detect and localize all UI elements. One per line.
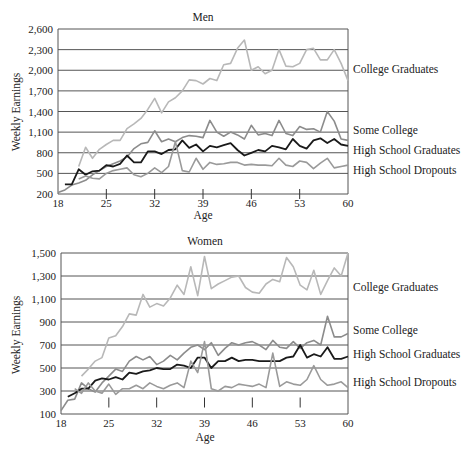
x-tick-label: 46	[247, 417, 259, 429]
y-tick-label: 300	[40, 385, 57, 397]
y-tick-label: 100	[40, 408, 57, 420]
y-tick-label: 700	[40, 339, 57, 351]
x-tick-label: 60	[343, 197, 355, 209]
x-tick-label: 53	[294, 197, 306, 209]
women-y-axis-title: Weekly Earnings	[10, 295, 23, 374]
y-tick-label: 1,300	[31, 270, 56, 282]
y-tick-label: 500	[37, 167, 54, 179]
women-x-tick-labels: 18253239465360	[56, 417, 355, 429]
x-tick-label: 32	[149, 197, 160, 209]
series-line-high-school-graduates	[68, 345, 348, 397]
women-label-high-school-dropouts: High School Dropouts	[353, 376, 457, 389]
men-x-axis-title: Age	[193, 209, 212, 222]
x-tick-label: 25	[103, 417, 115, 429]
men-y-axis-title: Weekly Earnings	[10, 72, 23, 151]
men-series-lines	[58, 40, 348, 193]
y-tick-label: 1,500	[31, 247, 56, 259]
y-tick-label: 1,100	[28, 126, 53, 138]
y-tick-label: 1,400	[28, 106, 53, 118]
women-chart: Women Weekly Earnings Age 10030050070090…	[10, 235, 461, 444]
y-tick-label: 1,100	[31, 293, 56, 305]
women-y-tick-labels: 1003005007009001,1001,3001,500	[31, 247, 56, 420]
men-x-tick-labels: 18253239465360	[53, 197, 355, 209]
y-tick-label: 800	[37, 147, 54, 159]
y-tick-label: 2,000	[28, 64, 53, 76]
x-tick-label: 46	[246, 197, 258, 209]
earnings-by-age-charts: Men Weekly Earnings Age 2005008001,1001,…	[0, 0, 463, 455]
y-tick-label: 2,300	[28, 44, 53, 56]
men-y-tick-labels: 2005008001,1001,4001,7002,0002,3002,600	[28, 23, 53, 200]
men-label-high-school-graduates: High School Graduates	[353, 144, 461, 157]
x-tick-label: 32	[151, 417, 162, 429]
y-tick-label: 500	[40, 362, 57, 374]
men-series-labels: College Graduates Some College High Scho…	[353, 63, 461, 177]
women-label-college-graduates: College Graduates	[353, 281, 439, 294]
men-label-some-college: Some College	[353, 124, 418, 137]
x-tick-label: 39	[198, 197, 210, 209]
men-label-high-school-dropouts: High School Dropouts	[353, 164, 457, 177]
y-tick-label: 900	[40, 316, 57, 328]
women-x-axis-title: Age	[195, 431, 214, 444]
women-chart-title: Women	[187, 235, 223, 247]
x-tick-label: 25	[101, 197, 113, 209]
y-tick-label: 1,700	[28, 85, 53, 97]
x-tick-label: 39	[199, 417, 211, 429]
x-tick-label: 60	[343, 417, 355, 429]
series-line-high-school-graduates	[65, 138, 348, 184]
x-tick-label: 53	[295, 417, 307, 429]
y-tick-label: 2,600	[28, 23, 53, 35]
x-tick-label: 18	[56, 417, 68, 429]
women-series-lines	[61, 253, 348, 411]
men-chart-title: Men	[192, 11, 213, 23]
women-series-labels: College Graduates Some College High Scho…	[353, 281, 461, 389]
series-line-some-college	[61, 316, 348, 410]
women-label-some-college: Some College	[353, 324, 418, 337]
men-label-college-graduates: College Graduates	[353, 63, 439, 76]
x-tick-label: 18	[53, 197, 65, 209]
women-label-high-school-graduates: High School Graduates	[353, 348, 461, 361]
y-tick-label: 200	[37, 188, 54, 200]
men-chart: Men Weekly Earnings Age 2005008001,1001,…	[10, 11, 461, 222]
